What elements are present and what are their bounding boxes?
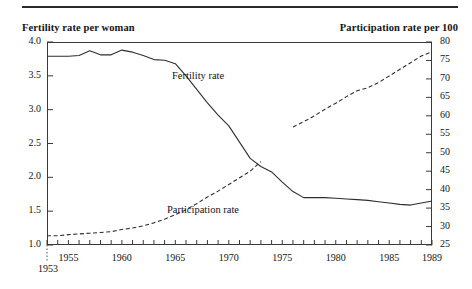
y-axis-left-tick-label: 3.5 (11, 69, 41, 80)
y-axis-right-tick-label: 55 (440, 127, 470, 138)
y-axis-left-tick-label: 1.5 (11, 204, 41, 215)
y-axis-right-tick-label: 40 (440, 183, 470, 194)
figure-container: Fertility rate per woman Participation r… (0, 0, 472, 289)
plot-area (47, 42, 432, 245)
x-axis-tick-label: 1980 (316, 252, 356, 263)
y-axis-right-tick-label: 80 (440, 35, 470, 46)
y-axis-left-tick-label: 3.0 (11, 103, 41, 114)
y-axis-right-tick-label: 50 (440, 146, 470, 157)
y-axis-right-tick-label: 30 (440, 220, 470, 231)
series-label-fertility: Fertility rate (172, 70, 224, 81)
y-axis-right-tick-label: 60 (440, 109, 470, 120)
y-axis-right-tick-label: 70 (440, 72, 470, 83)
y-axis-right-tick-label: 35 (440, 201, 470, 212)
x-axis-tick-label: 1970 (209, 252, 249, 263)
y-axis-right-tick-label: 75 (440, 53, 470, 64)
y-axis-left-tick-label: 2.0 (11, 170, 41, 181)
tick-marks-layer (47, 42, 432, 261)
y-axis-right-tick-label: 25 (440, 238, 470, 249)
x-axis-tick-label: 1955 (48, 252, 88, 263)
y-axis-left-tick-label: 1.0 (11, 238, 41, 249)
x-axis-tick-label: 1975 (262, 252, 302, 263)
right-axis-title: Participation rate per 100 (340, 22, 458, 33)
y-axis-right-tick-label: 45 (440, 164, 470, 175)
left-axis-title: Fertility rate per woman (22, 22, 135, 33)
x-axis-tick-label: 1985 (369, 252, 409, 263)
series-label-participation: Participation rate (167, 204, 239, 215)
start-year-marker-label: 1953 (28, 263, 68, 274)
x-axis-tick-label: 1965 (155, 252, 195, 263)
y-axis-right-tick-label: 65 (440, 90, 470, 101)
y-axis-left-tick-label: 2.5 (11, 137, 41, 148)
data-series-layer (47, 50, 432, 236)
x-axis-tick-label: 1960 (102, 252, 142, 263)
x-axis-tick-label: 1989 (412, 252, 452, 263)
y-axis-left-tick-label: 4.0 (11, 35, 41, 46)
header-rule (22, 6, 458, 8)
plot-svg (47, 42, 434, 247)
